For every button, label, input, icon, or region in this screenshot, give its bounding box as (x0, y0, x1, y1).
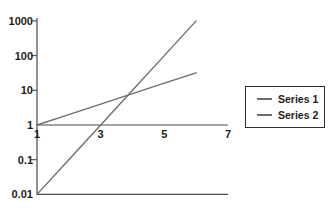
y-tick-label: 1 (27, 119, 33, 131)
legend: Series 1 Series 2 (245, 86, 325, 128)
legend-label-series-2: Series 2 (278, 110, 318, 121)
legend-line-sample-series-1 (257, 98, 272, 100)
chart: 10001001010.10.011357 Series 1 Series 2 (0, 0, 333, 210)
series-1-line (37, 21, 196, 195)
y-tick-label: 0.1 (18, 154, 33, 166)
legend-line-sample-series-2 (257, 114, 272, 116)
x-tick-label: 5 (161, 128, 167, 140)
y-tick-label: 0.01 (12, 188, 33, 200)
y-tick-label: 1000 (9, 15, 33, 27)
x-tick-label: 1 (34, 128, 40, 140)
x-tick-label: 7 (225, 128, 231, 140)
legend-label-series-1: Series 1 (278, 94, 318, 105)
series-2-line (37, 73, 196, 125)
legend-item: Series 1 (257, 93, 324, 106)
x-tick-label: 3 (98, 128, 104, 140)
y-tick-label: 100 (15, 50, 33, 62)
y-tick-label: 10 (21, 84, 33, 96)
legend-item: Series 2 (257, 109, 324, 122)
